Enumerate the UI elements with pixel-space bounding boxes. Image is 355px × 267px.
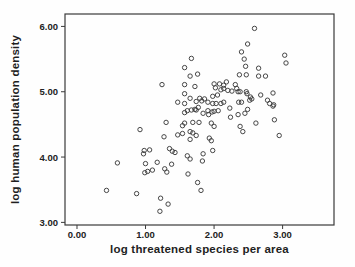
scatter-point	[176, 100, 180, 104]
scatter-point	[134, 191, 138, 195]
scatter-point	[191, 120, 195, 124]
scatter-point	[188, 74, 192, 78]
scatter-point	[263, 74, 267, 78]
scatter-point	[256, 74, 260, 78]
scatter-point	[182, 101, 186, 105]
scatter-point	[272, 118, 276, 122]
scatter-point	[237, 73, 241, 77]
scatter-point	[236, 112, 240, 116]
scatter-point	[211, 94, 215, 98]
scatter-point	[158, 209, 162, 213]
y-axis-title: log human population density	[9, 35, 21, 205]
scatter-point	[197, 120, 201, 124]
scatter-point	[228, 115, 232, 119]
scatter-point	[271, 91, 275, 95]
scatter-point	[239, 50, 243, 54]
scatter-point	[244, 73, 248, 77]
scatter-point	[182, 82, 186, 86]
x-tick-label: 2.00	[205, 229, 224, 240]
scatter-point	[188, 157, 192, 161]
x-tick-label: 1.00	[136, 229, 155, 240]
scatter-point	[158, 196, 162, 200]
x-axis-tick-marks	[77, 225, 283, 229]
scatter-point	[213, 86, 217, 90]
scatter-point	[167, 146, 171, 150]
scatter-point	[259, 93, 263, 97]
scatter-point	[176, 133, 180, 137]
scatter-point	[143, 161, 147, 165]
scatter-point	[245, 107, 249, 111]
scatter-point	[188, 137, 192, 141]
scatter-point	[180, 131, 184, 135]
scatter-point	[283, 53, 287, 57]
scatter-point	[115, 161, 119, 165]
x-tick-label: 3.00	[273, 229, 292, 240]
y-tick-label: 5.00	[40, 86, 59, 97]
scatter-point	[195, 180, 199, 184]
scatter-point	[104, 188, 108, 192]
scatter-point	[165, 170, 169, 174]
scatter-point	[238, 124, 242, 128]
scatter-point	[147, 148, 151, 152]
scatter-point	[239, 100, 243, 104]
scatter-point	[284, 61, 288, 65]
scatter-point	[182, 92, 186, 96]
scatter-figure: 0.001.002.003.00 3.004.005.006.00 log th…	[0, 0, 355, 267]
scatter-point	[193, 84, 197, 88]
scatter-point	[150, 168, 154, 172]
scatter-point	[194, 133, 198, 137]
scatter-point	[241, 129, 245, 133]
scatter-point	[201, 111, 205, 115]
scatter-point	[199, 188, 203, 192]
scatter-point	[228, 106, 232, 110]
data-points	[104, 26, 288, 213]
scatter-plot: 0.001.002.003.00 3.004.005.006.00 log th…	[0, 0, 355, 267]
scatter-point	[189, 56, 193, 60]
y-axis-tick-labels: 3.004.005.006.00	[40, 21, 59, 228]
scatter-point	[155, 160, 159, 164]
scatter-point	[186, 172, 190, 176]
scatter-point	[200, 159, 204, 163]
scatter-point	[211, 148, 215, 152]
scatter-point	[242, 57, 246, 61]
plot-frame	[65, 14, 334, 225]
x-axis-title: log threatened species per area	[110, 243, 289, 255]
scatter-point	[243, 64, 247, 68]
scatter-point	[195, 72, 199, 76]
scatter-point	[245, 42, 249, 46]
scatter-point	[206, 100, 210, 104]
scatter-point	[254, 121, 258, 125]
y-tick-label: 4.00	[40, 152, 59, 163]
x-axis-tick-labels: 0.001.002.003.00	[68, 229, 292, 240]
scatter-point	[166, 202, 170, 206]
scatter-point	[138, 127, 142, 131]
scatter-point	[252, 26, 256, 30]
scatter-point	[212, 124, 216, 128]
scatter-point	[164, 120, 168, 124]
scatter-point	[201, 152, 205, 156]
scatter-point	[169, 162, 173, 166]
x-tick-label: 0.00	[68, 229, 87, 240]
scatter-point	[215, 93, 219, 97]
y-tick-label: 3.00	[40, 217, 59, 228]
y-tick-label: 6.00	[40, 21, 59, 32]
scatter-point	[182, 65, 186, 69]
scatter-point	[160, 82, 164, 86]
scatter-point	[162, 135, 166, 139]
scatter-point	[188, 96, 192, 100]
scatter-point	[256, 66, 260, 70]
scatter-point	[277, 133, 281, 137]
